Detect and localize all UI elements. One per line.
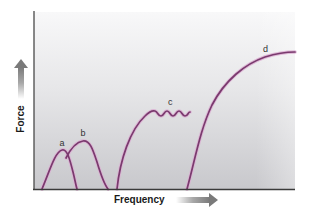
y-axis-label: Force bbox=[14, 104, 28, 134]
label-curve-c: c bbox=[168, 97, 173, 107]
label-curve-b: b bbox=[81, 128, 86, 138]
label-curve-d: d bbox=[263, 44, 268, 54]
label-curve-a: a bbox=[60, 138, 65, 148]
arrow-up-icon bbox=[14, 59, 28, 99]
chart-figure: a b c d Force Frequency bbox=[0, 0, 312, 215]
plot-area: a b c d bbox=[0, 0, 312, 215]
arrow-right-icon bbox=[176, 193, 218, 207]
x-axis-label: Frequency bbox=[114, 193, 165, 207]
